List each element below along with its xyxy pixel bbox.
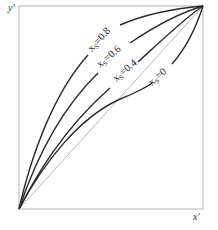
x-axis-label: x' xyxy=(192,211,200,222)
equilibrium-diagram: y' x' xS=0.8 xS=0.6 xS=0.4 xS=0 xyxy=(0,0,218,230)
diagonal-line xyxy=(19,6,203,209)
label-xs-0.4: xS=0.4 xyxy=(110,56,141,85)
y-axis-label: y' xyxy=(7,2,15,13)
